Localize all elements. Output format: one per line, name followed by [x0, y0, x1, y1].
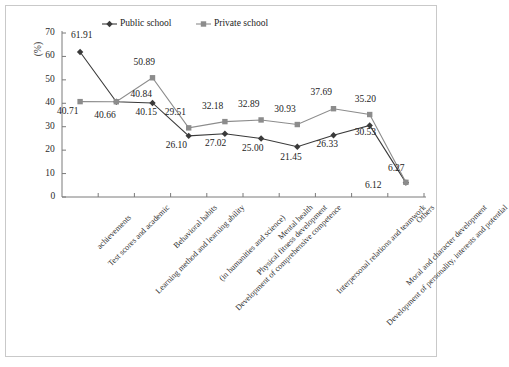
data-point-marker[interactable] — [330, 132, 336, 138]
value-label-private-school: 30.93 — [274, 104, 295, 114]
data-point-marker[interactable] — [186, 125, 191, 130]
y-axis-tick-label: 20 — [45, 144, 55, 154]
data-point-marker[interactable] — [295, 122, 300, 127]
data-point-marker[interactable] — [294, 144, 300, 150]
data-point-marker[interactable] — [258, 135, 264, 141]
data-point-marker[interactable] — [258, 117, 263, 122]
y-axis-tick-label: 0 — [51, 191, 56, 201]
legend-label-public-school: Public school — [120, 18, 171, 28]
value-label-private-school: 37.69 — [311, 87, 332, 97]
y-axis-title: (%) — [33, 42, 43, 56]
data-point-marker[interactable] — [222, 130, 228, 136]
data-point-marker[interactable] — [367, 112, 372, 117]
value-label-private-school: 6.27 — [388, 163, 405, 173]
y-axis-tick-label: 60 — [45, 50, 55, 60]
y-axis-tick-label: 10 — [45, 168, 55, 178]
value-label-private-school: 29.51 — [165, 107, 186, 117]
y-axis-tick-label: 50 — [45, 74, 55, 84]
legend-label-private-school: Private school — [214, 18, 268, 28]
y-axis-tick-label: 70 — [45, 27, 55, 37]
y-axis-tick-label: 30 — [45, 121, 55, 131]
value-label-public-school: 30.53 — [355, 127, 376, 137]
value-label-private-school: 32.89 — [238, 99, 259, 109]
series-line-public-school — [80, 52, 406, 183]
value-label-public-school: 61.91 — [71, 30, 92, 40]
value-label-public-school: 6.12 — [365, 180, 382, 190]
data-point-marker[interactable] — [77, 99, 82, 104]
legend-marker-diamond-marker — [106, 21, 112, 27]
value-label-private-school: 35.20 — [355, 94, 376, 104]
value-label-private-school: 32.18 — [202, 101, 223, 111]
value-label-public-school: 27.02 — [205, 138, 226, 148]
data-point-marker[interactable] — [150, 75, 155, 80]
value-label-shared-40-66: 40.66 — [94, 110, 115, 120]
data-point-marker[interactable] — [222, 119, 227, 124]
value-label-annotation-40-84: 40.84 — [131, 89, 152, 99]
value-label-private-school: 40.71 — [57, 106, 78, 116]
value-label-public-school: 40.15 — [136, 107, 157, 117]
value-label-public-school: 25.00 — [242, 143, 263, 153]
value-label-private-school: 50.89 — [134, 57, 155, 67]
legend-marker-square-marker — [201, 21, 206, 26]
value-label-public-school: 21.45 — [280, 152, 301, 162]
value-label-public-school: 26.10 — [166, 140, 187, 150]
value-label-public-school: 26.33 — [317, 139, 338, 149]
data-point-marker[interactable] — [403, 180, 408, 185]
data-point-marker[interactable] — [331, 106, 336, 111]
data-point-marker[interactable] — [114, 99, 119, 104]
y-axis-tick-label: 40 — [45, 97, 55, 107]
